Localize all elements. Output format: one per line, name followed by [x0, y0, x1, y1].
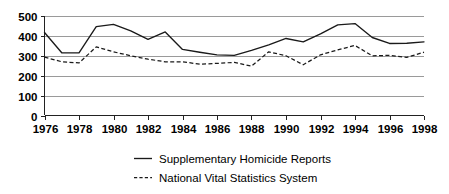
x-tick-label-1988: 1988: [239, 123, 265, 135]
x-tick-label-1980: 1980: [102, 123, 128, 135]
x-tick-label-1984: 1984: [171, 123, 197, 135]
y-tick-label-0: 0: [31, 111, 37, 123]
x-tick-label-1992: 1992: [309, 123, 335, 135]
line-chart-figure: 0100200300400500 19761978198019821984198…: [0, 0, 449, 194]
x-tick-label-1996: 1996: [378, 123, 404, 135]
y-tick-label-300: 300: [18, 51, 37, 63]
y-tick-label-500: 500: [18, 11, 37, 23]
y-axis-ticks-group: 0100200300400500: [18, 11, 44, 123]
y-tick-label-200: 200: [18, 71, 37, 83]
series-line-supplementary-homicide-reports: [45, 24, 425, 56]
x-tick-label-1998: 1998: [412, 123, 438, 135]
x-axis-ticks-group: 1976197819801982198419861988199019921994…: [33, 116, 438, 135]
x-tick-label-1978: 1978: [67, 123, 93, 135]
legend-label-supplementary-homicide-reports: Supplementary Homicide Reports: [159, 153, 331, 165]
x-tick-label-1994: 1994: [343, 123, 369, 135]
x-tick-label-1982: 1982: [136, 123, 162, 135]
chart-canvas: 0100200300400500 19761978198019821984198…: [0, 0, 449, 194]
gridlines-group: [45, 17, 425, 97]
y-tick-label-100: 100: [18, 91, 37, 103]
chart-legend: Supplementary Homicide Reports National …: [134, 153, 331, 184]
x-tick-label-1990: 1990: [274, 123, 300, 135]
x-tick-label-1976: 1976: [33, 123, 59, 135]
legend-label-national-vital-statistics-system: National Vital Statistics System: [159, 172, 317, 184]
x-tick-label-1986: 1986: [205, 123, 231, 135]
y-tick-label-400: 400: [18, 31, 37, 43]
